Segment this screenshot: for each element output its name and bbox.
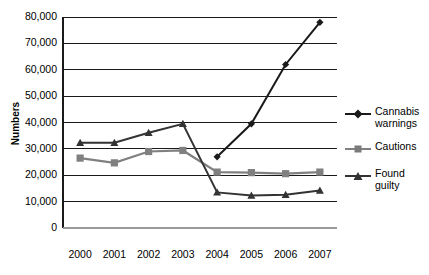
legend-item-cannabis-warnings: Cannabis warnings <box>345 106 429 129</box>
diamond-marker-icon <box>345 107 371 121</box>
triangle-marker-icon <box>345 169 371 183</box>
square-marker-icon <box>345 142 371 156</box>
legend-item-found-guilty: Found guilty <box>345 168 429 191</box>
legend-label-cannabis-warnings: Cannabis warnings <box>371 106 429 129</box>
legend-item-cautions: Cautions <box>345 141 429 156</box>
line-chart: Numbers 010,00020,00030,00040,00050,0006… <box>0 0 429 275</box>
legend-label-found-guilty: Found guilty <box>371 168 429 191</box>
chart-legend: Cannabis warnings Cautions Found guilty <box>345 106 429 203</box>
legend-label-cautions: Cautions <box>371 141 416 153</box>
